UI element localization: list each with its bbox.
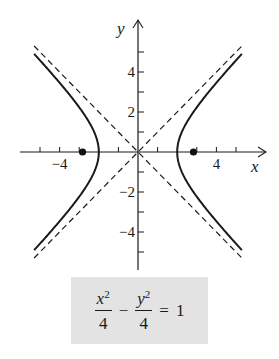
x-axis-label: x	[250, 157, 259, 176]
asymptote-line	[34, 44, 244, 258]
axes	[20, 20, 266, 270]
minus-sign: −	[118, 301, 130, 321]
y-tick-label: 4	[128, 64, 136, 80]
focus-left-dot	[79, 148, 86, 155]
y-term: y	[137, 289, 145, 308]
rhs-value: 1	[176, 301, 185, 321]
x-fraction: x2 4	[95, 289, 112, 332]
y-fraction: y2 4	[135, 289, 152, 332]
focus-right-dot	[190, 148, 197, 155]
x-exponent: 2	[104, 288, 110, 300]
y-denominator: 4	[140, 311, 149, 332]
y-exponent: 2	[145, 288, 151, 300]
y-tick-label: −2	[119, 184, 135, 200]
y-tick-label: −4	[119, 224, 135, 240]
equation-box: x2 4 − y2 4 = 1	[71, 277, 208, 344]
y-axis-label: y	[115, 19, 125, 38]
x-denominator: 4	[99, 311, 108, 332]
x-tick-label: −4	[52, 156, 68, 172]
y-tick-label: 2	[128, 104, 136, 120]
x-tick-label: 4	[213, 156, 221, 172]
asymptote-line	[34, 46, 244, 260]
equals-sign: =	[158, 301, 170, 321]
